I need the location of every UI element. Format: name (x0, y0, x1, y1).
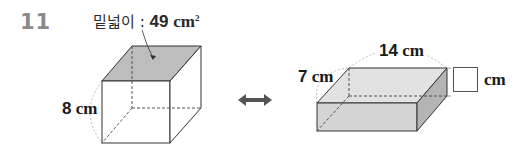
base-area-value: 49 (150, 12, 169, 31)
question-number: 11 (20, 10, 51, 34)
height-bracket (447, 68, 451, 96)
prism-width-label: 14 cm (377, 41, 426, 61)
cube-figure (90, 30, 201, 143)
prism-front-face (317, 103, 417, 131)
cube-front-face (102, 81, 170, 143)
base-area-text: 밑넓이 (93, 13, 135, 31)
answer-unit-label: cm (484, 70, 506, 90)
separator: : (135, 13, 150, 31)
problem-11: 11 밑넓이 : 49 cm2 8 cm 7 cm 14 cm cm (0, 0, 520, 160)
prism-figure (316, 49, 451, 131)
double-arrow-icon (238, 94, 272, 106)
prism-depth-label: 7 cm (298, 67, 333, 87)
base-area-label: 밑넓이 : 49 cm2 (93, 10, 200, 32)
cube-height-label: 8 cm (62, 99, 97, 119)
base-area-exponent: 2 (195, 13, 200, 23)
figures-canvas (0, 0, 520, 160)
base-area-unit: cm (173, 12, 195, 31)
height-answer-box[interactable] (453, 67, 478, 92)
